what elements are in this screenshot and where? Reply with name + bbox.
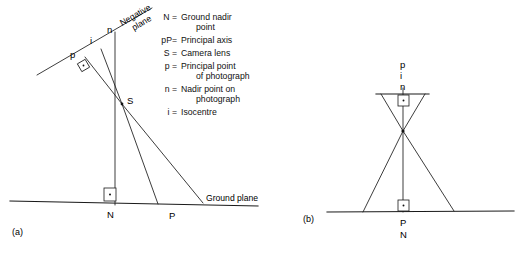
photogrammetry-figure: p i n S N P Negative plane Ground plane … bbox=[0, 0, 529, 253]
right-angle-dot-PN-b bbox=[403, 205, 405, 207]
panel-caption-a: (a) bbox=[12, 227, 23, 237]
legend-text-0-line2: point bbox=[196, 22, 215, 32]
label-P-a: P bbox=[169, 210, 175, 221]
ray-S-to-p-a bbox=[85, 57, 122, 104]
legend-text-2-line1: Camera lens bbox=[181, 48, 231, 58]
ray-S-to-ground-mid-a bbox=[122, 104, 158, 204]
figure-container: p i n S N P Negative plane Ground plane … bbox=[0, 0, 529, 253]
right-angle-dot-N-a bbox=[109, 194, 111, 196]
legend-symbol-2: S = bbox=[164, 48, 177, 58]
legend-symbol-1: pP= bbox=[161, 35, 177, 45]
diagram-b: p i n P N (b) bbox=[303, 59, 514, 240]
label-N-a: N bbox=[107, 209, 114, 220]
legend-text-3-line1: Principal point bbox=[181, 61, 236, 71]
right-angle-dot-p-a bbox=[83, 65, 85, 67]
right-angle-dot-n-b bbox=[403, 100, 405, 102]
camera-lens-node-b bbox=[401, 129, 404, 132]
label-P-b: P bbox=[400, 217, 406, 228]
label-n-a: n bbox=[107, 24, 112, 35]
legend-text-1-line1: Principal axis bbox=[181, 35, 233, 45]
legend-symbol-3: p = bbox=[165, 61, 177, 71]
negative-plane-label-a: Negative plane bbox=[118, 2, 158, 36]
ray-node-to-left-ground-b bbox=[363, 131, 403, 212]
legend-text-4-line2: photograph bbox=[196, 94, 240, 104]
ray-S-to-P-a bbox=[122, 104, 203, 203]
ground-plane-label-a: Ground plane bbox=[206, 193, 258, 203]
legend-text-0-line1: Ground nadir bbox=[181, 12, 232, 22]
label-i-b: i bbox=[400, 70, 402, 81]
legend-symbol-4: n = bbox=[165, 84, 177, 94]
panel-caption-b: (b) bbox=[303, 214, 314, 224]
legend-text-3-line2: of photograph bbox=[196, 71, 250, 81]
legend-text-4-line1: Nadir point on bbox=[181, 84, 235, 94]
label-i-a: i bbox=[90, 35, 92, 46]
legend-symbol-0: N = bbox=[163, 12, 177, 22]
legend: N = Ground nadir point pP= Principal axi… bbox=[161, 12, 249, 117]
label-p-a: p bbox=[70, 49, 75, 60]
label-p-b: p bbox=[400, 59, 405, 70]
label-S-a: S bbox=[127, 95, 133, 106]
legend-symbol-5: i = bbox=[168, 107, 177, 117]
label-n-b: n bbox=[400, 81, 405, 92]
legend-text-5-line1: Isocentre bbox=[181, 107, 217, 117]
ground-plane-line-b bbox=[327, 211, 514, 212]
camera-lens-node-a bbox=[121, 103, 124, 106]
ray-S-to-i-a bbox=[101, 49, 122, 104]
ray-node-to-right-ground-b bbox=[403, 131, 454, 211]
label-N-b: N bbox=[400, 229, 407, 240]
